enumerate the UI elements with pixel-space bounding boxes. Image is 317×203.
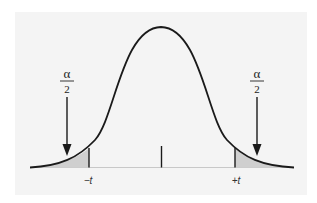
left-arrow-head-icon — [63, 144, 72, 156]
right-arrow-head-icon — [253, 144, 262, 156]
right-tail-shade — [235, 149, 294, 168]
minus-t-label: −t — [84, 175, 94, 186]
right-alpha-denominator: 2 — [254, 83, 260, 95]
left-tail-shade — [30, 149, 89, 168]
left-alpha-numerator: α — [64, 66, 71, 81]
plus-t-label: +t — [232, 175, 242, 186]
t-distribution-diagram: α 2 α 2 −t +t — [0, 0, 317, 203]
right-alpha-numerator: α — [254, 66, 261, 81]
left-alpha-denominator: 2 — [64, 83, 70, 95]
